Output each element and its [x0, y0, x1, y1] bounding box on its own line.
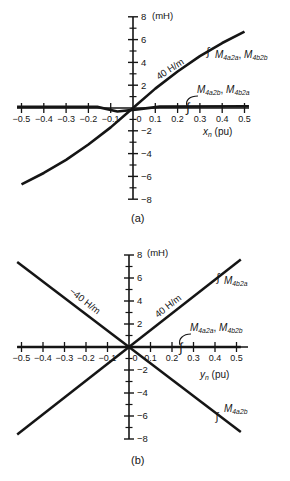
x-tick-label: 0.2 [171, 114, 184, 124]
mutual-inductance-figure: (a) −0.5−0.4−0.3−0.2−0.100.10.20.30.40.5… [0, 0, 290, 481]
y-tick-label: 8 [137, 249, 142, 260]
x-tick-label: 0.3 [187, 353, 200, 363]
x-tick-label: 0.4 [216, 114, 229, 124]
x-tick-label: 0.5 [238, 114, 251, 124]
x-tick-label: 0.2 [166, 353, 179, 363]
plot-b: (b) −0.5−0.4−0.3−0.2−0.100.10.20.30.40.5… [0, 240, 290, 481]
y-tick-label: 4 [137, 295, 142, 306]
x-tick-label: 0 [136, 114, 141, 124]
y-tick-label: −6 [141, 171, 152, 182]
y-tick-label: 2 [137, 318, 142, 329]
x-tick-label: −0.5 [13, 353, 31, 363]
y-tick-label: 4 [141, 57, 146, 68]
y-tick-label: −4 [137, 387, 148, 398]
y-tick-label: 6 [141, 34, 146, 45]
y-tick-label: 6 [137, 272, 142, 283]
x-tick-label: −0.5 [13, 114, 31, 124]
x-tick-label: 0 [132, 353, 137, 363]
y-axis-unit: (mH) [152, 11, 173, 21]
x-tick-label: 0.1 [149, 114, 162, 124]
series-label-M4a2a-M4b2b: M4a2a, M4b2b [190, 323, 243, 335]
y-tick-label: −8 [137, 433, 148, 444]
plot-a-canvas: −0.5−0.4−0.3−0.2−0.100.10.20.30.40.58642… [0, 0, 290, 240]
x-tick-label: −0.2 [77, 353, 95, 363]
x-axis-label: xn (pu) [203, 127, 232, 139]
x-tick-label: −0.2 [80, 114, 98, 124]
x-tick-label: −0.4 [35, 114, 53, 124]
x-tick-label: 0.5 [230, 353, 243, 363]
y-axis-unit: (mH) [147, 248, 168, 258]
y-tick-label: −2 [137, 364, 148, 375]
y-tick-label: −6 [137, 410, 148, 421]
series-label-M4a2b: M4a2b [224, 404, 247, 416]
series-label-M4a2a-M4b2b: M4a2a, M4b2b [215, 50, 268, 62]
y-tick-label: −4 [141, 148, 152, 159]
x-tick-label: 0.3 [194, 114, 207, 124]
x-tick-label: −0.4 [34, 353, 52, 363]
y-tick-label: 8 [141, 11, 146, 22]
plot-a: (a) −0.5−0.4−0.3−0.2−0.100.10.20.30.40.5… [0, 0, 290, 240]
x-tick-label: −0.3 [56, 353, 74, 363]
series-label-M4a2b-M4b2a: M4a2b, M4b2a [197, 85, 250, 97]
series-label-M4b2a: M4b2a [224, 276, 247, 288]
x-tick-label: −0.3 [57, 114, 75, 124]
y-tick-label: −2 [141, 125, 152, 136]
y-tick-label: −8 [141, 194, 152, 205]
x-axis-label: yn (pu) [200, 370, 229, 382]
x-tick-label: 0.4 [209, 353, 222, 363]
y-tick-label: 2 [141, 80, 146, 91]
